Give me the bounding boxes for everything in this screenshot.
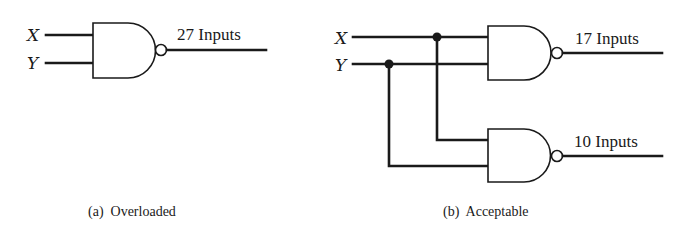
nand-gate-bottom-icon [488, 129, 551, 182]
junction-dot-y-icon [385, 60, 394, 69]
output-label: 27 Inputs [177, 25, 241, 44]
output-label-top: 17 Inputs [575, 29, 639, 48]
input-label-x: X [25, 25, 40, 45]
inversion-bubble-icon [156, 45, 167, 56]
inversion-bubble-bottom-icon [552, 151, 563, 162]
inversion-bubble-top-icon [552, 48, 563, 59]
part-a-overloaded: X Y 27 Inputs (a) Overloaded [25, 23, 266, 220]
branch-wire-y [389, 64, 488, 166]
part-b-acceptable: X Y 17 Inputs 10 Inputs (b) Acceptable [333, 26, 662, 220]
fanout-diagram: X Y 27 Inputs (a) Overloaded X Y 17 Inpu… [0, 0, 696, 236]
nand-gate-top-icon [488, 26, 551, 80]
input-label-x: X [333, 28, 348, 48]
input-label-y: Y [27, 53, 40, 73]
branch-wire-x [437, 37, 488, 140]
nand-gate-icon [93, 23, 156, 78]
input-label-y: Y [335, 55, 348, 75]
junction-dot-x-icon [433, 33, 442, 42]
output-label-bottom: 10 Inputs [574, 132, 638, 151]
caption-a: (a) Overloaded [88, 204, 176, 220]
caption-b: (b) Acceptable [443, 204, 529, 220]
